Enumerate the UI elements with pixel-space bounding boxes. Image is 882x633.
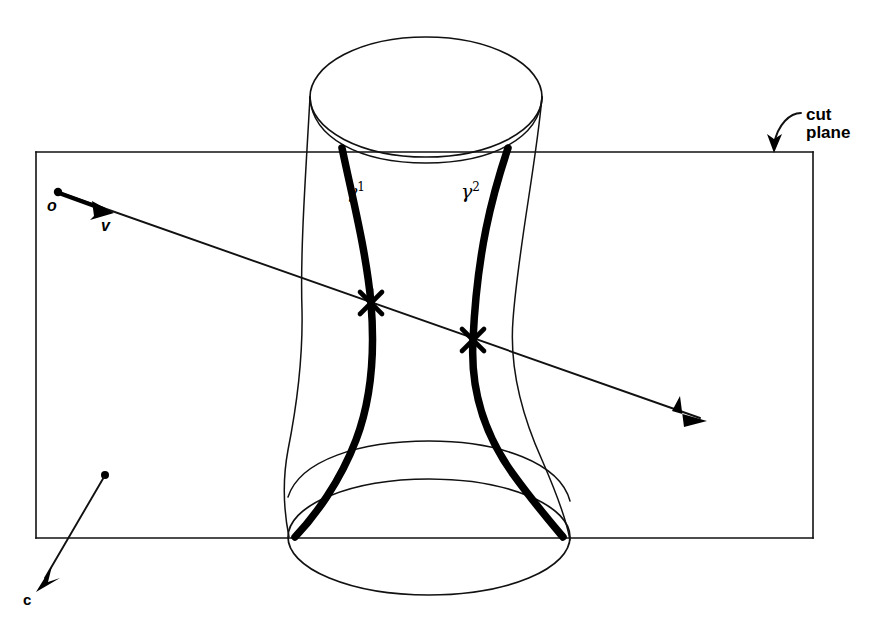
gamma-2-label: γ2	[461, 181, 480, 202]
ray-line	[58, 192, 700, 418]
ray-origin-dot	[54, 188, 62, 196]
diagram-svg	[0, 0, 882, 633]
cut-plane-callout-line1: cut	[806, 105, 832, 124]
center-dot	[101, 471, 109, 479]
intersection-gamma-1-cross	[360, 289, 382, 317]
ray-group	[54, 188, 707, 427]
gamma-1-superscript: 1	[357, 180, 365, 194]
gamma-2-superscript: 2	[472, 180, 480, 194]
gamma-1-curve	[295, 148, 373, 537]
gamma-2-letter: γ	[461, 180, 472, 202]
direction-vector-label: v	[101, 218, 110, 235]
cut-plane-leader-arrowhead	[767, 134, 782, 153]
cut-plane-callout: cutplane	[806, 106, 850, 143]
top-rim-ellipse	[310, 37, 542, 157]
cut-plane-callout-leader	[767, 113, 801, 153]
center-label: c	[23, 592, 31, 608]
gamma-1-label: γ1	[346, 181, 365, 202]
center-leader-line	[45, 477, 104, 578]
figure-canvas: o v γ1 γ2 cutplane c	[0, 0, 882, 633]
center-marker-group	[36, 471, 109, 592]
center-arrowhead	[36, 566, 60, 592]
cut-plane-callout-line2: plane	[806, 123, 850, 142]
right-silhouette-curve	[512, 97, 570, 540]
surface-of-revolution	[284, 37, 570, 595]
cut-plane-rectangle	[36, 152, 813, 538]
ray-arrowhead	[672, 396, 707, 427]
ray-origin-label: o	[47, 198, 57, 215]
intersection-marks	[360, 289, 484, 354]
gamma-1-letter: γ	[346, 180, 357, 202]
